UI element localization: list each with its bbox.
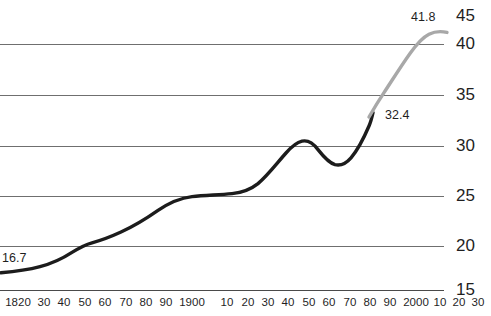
x-tick-1820: 1820 (5, 296, 31, 308)
x-axis-tick-labels: 1820 30 40 50 60 70 80 90 1900 10 20 30 … (5, 296, 484, 308)
x-tick-1840: 40 (58, 296, 71, 308)
x-tick-2010: 10 (434, 296, 447, 308)
x-tick-2020: 20 (453, 296, 466, 308)
annotation-start-value: 16.7 (2, 251, 26, 265)
x-tick-1890: 90 (160, 296, 173, 308)
series-group (1, 32, 447, 273)
annotation-projection-end: 41.8 (411, 10, 435, 24)
x-tick-1960: 60 (323, 296, 336, 308)
x-tick-1860: 60 (99, 296, 112, 308)
series-historic-line (1, 113, 373, 273)
x-tick-1910: 10 (221, 296, 234, 308)
y-tick-40: 40 (456, 34, 475, 53)
x-tick-2000: 2000 (403, 296, 429, 308)
x-tick-1990: 90 (384, 296, 397, 308)
x-tick-2030: 30 (472, 296, 485, 308)
y-tick-35: 35 (456, 85, 475, 104)
x-tick-1920: 20 (242, 296, 255, 308)
y-axis-tick-labels: 45 40 35 30 25 20 15 (456, 6, 475, 299)
x-tick-1930: 30 (262, 296, 275, 308)
x-tick-1980: 80 (364, 296, 377, 308)
data-annotations: 16.7 32.4 41.8 (2, 10, 435, 265)
x-tick-1970: 70 (344, 296, 357, 308)
x-tick-1950: 50 (303, 296, 316, 308)
x-tick-1900: 1900 (179, 296, 205, 308)
y-tick-20: 20 (456, 236, 475, 255)
y-tick-45: 45 (456, 6, 475, 25)
y-tick-25: 25 (456, 186, 475, 205)
x-tick-1870: 70 (120, 296, 133, 308)
gridlines (0, 45, 444, 291)
annotation-historic-end: 32.4 (385, 108, 409, 122)
x-tick-1880: 80 (140, 296, 153, 308)
x-tick-1850: 50 (79, 296, 92, 308)
x-tick-1940: 40 (282, 296, 295, 308)
y-tick-30: 30 (456, 136, 475, 155)
line-chart: 45 40 35 30 25 20 15 1820 30 40 50 60 70… (0, 0, 491, 316)
x-tick-1830: 30 (38, 296, 51, 308)
chart-canvas: 45 40 35 30 25 20 15 1820 30 40 50 60 70… (0, 0, 491, 316)
